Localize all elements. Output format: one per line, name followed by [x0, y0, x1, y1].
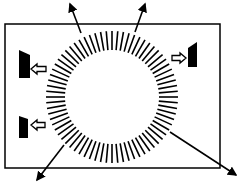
ring-tick: [106, 144, 108, 163]
ring-tick: [48, 109, 66, 114]
ring-tick: [46, 101, 65, 103]
arrow-up-right-icon: [135, 4, 145, 32]
ring-tick: [151, 59, 167, 70]
ring-tick: [120, 32, 123, 51]
ring-tick: [124, 142, 129, 160]
hollow-arrow-left-top-icon: [31, 64, 46, 74]
tick-ring: [46, 31, 178, 163]
arrow-down-left-icon: [37, 145, 64, 180]
hollow-arrow-right-icon: [172, 53, 186, 63]
ring-tick: [58, 59, 74, 70]
plate-right: [188, 42, 197, 67]
ring-tick: [95, 142, 100, 160]
ring-tick: [145, 50, 158, 63]
ring-tick: [70, 46, 82, 61]
arrow-up-left-icon: [70, 4, 81, 33]
ring-tick: [142, 133, 154, 148]
ring-tick: [157, 109, 175, 114]
plate-left-top: [19, 50, 30, 78]
ring-tick: [70, 133, 82, 148]
hollow-arrow-left-bottom-icon: [31, 120, 45, 130]
ring-tick: [139, 136, 150, 152]
ring-tick: [74, 136, 85, 152]
ring-tick: [145, 130, 158, 143]
ring-tick: [139, 43, 150, 59]
plate-left-bottom: [19, 116, 28, 138]
ring-tick: [158, 105, 177, 108]
ring-tick: [158, 86, 177, 89]
ring-tick: [148, 127, 163, 139]
ring-tick: [159, 91, 178, 93]
ring-tick: [116, 144, 118, 163]
ring-tick: [47, 86, 66, 89]
ring-tick: [101, 32, 104, 51]
ring-tick: [151, 124, 167, 135]
ring-tick: [157, 80, 175, 85]
ring-tick: [106, 31, 108, 50]
ring-tick: [124, 33, 129, 51]
ring-tick: [120, 143, 123, 162]
ring-tick: [74, 43, 85, 59]
outgoing-arrows: [37, 4, 236, 180]
ring-tick: [148, 55, 163, 67]
radiation-diagram: [0, 0, 237, 191]
ring-tick: [48, 80, 66, 85]
ring-tick: [46, 91, 65, 93]
ring-tick: [95, 33, 100, 51]
ring-tick: [47, 105, 66, 108]
ring-tick: [159, 101, 178, 103]
ring-tick: [116, 31, 118, 50]
ring-tick: [101, 143, 104, 162]
ring-tick: [58, 124, 74, 135]
ring-tick: [142, 46, 154, 61]
ring-tick: [65, 130, 78, 143]
ring-tick: [61, 55, 76, 67]
ring-tick: [65, 50, 78, 63]
ring-tick: [61, 127, 76, 139]
